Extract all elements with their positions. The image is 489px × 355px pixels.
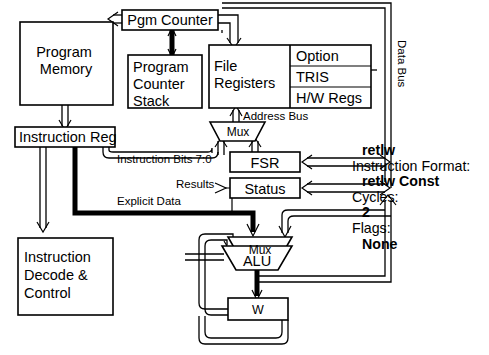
flags-label: Flags: (352, 221, 484, 237)
cycles-label: Cycles: (352, 190, 484, 206)
cycles-value: 2 (352, 205, 484, 221)
bus-pc-stack-link (168, 28, 176, 57)
label-program-memory: Program Memory (36, 44, 96, 77)
label-address-bus: Address Bus (243, 110, 308, 122)
label-tris: TRIS (296, 69, 329, 85)
label-mux-address: Mux (227, 125, 250, 139)
flags-value: None (352, 237, 484, 253)
instruction-format-value: retlw Const (352, 174, 484, 190)
label-hw-regs: H/W Regs (296, 90, 362, 106)
label-status: Status (244, 181, 285, 197)
label-results: Results (176, 178, 215, 190)
instruction-format-label: Instruction Format: (352, 159, 484, 175)
label-instruction-reg: Instruction Reg (19, 129, 117, 145)
bus-ireg-to-decode (37, 140, 49, 232)
label-w-register: W (252, 303, 264, 317)
bus-alu-to-w (252, 268, 262, 300)
label-fsr: FSR (251, 155, 280, 171)
label-mux-alu: Mux (249, 243, 272, 257)
label-instruction-bits: Instruction Bits 7:0 (117, 153, 212, 165)
label-pgm-counter: Pgm Counter (127, 12, 213, 28)
label-explicit-data: Explicit Data (117, 195, 182, 207)
label-data-bus: Data Bus (396, 40, 408, 88)
instruction-info-panel: retlw Instruction Format: retlw Const Cy… (352, 143, 484, 252)
label-option: Option (296, 48, 339, 64)
instruction-mnemonic: retlw (352, 143, 484, 159)
diagram-canvas: Program Memory Pgm Counter Program Count… (0, 0, 489, 355)
